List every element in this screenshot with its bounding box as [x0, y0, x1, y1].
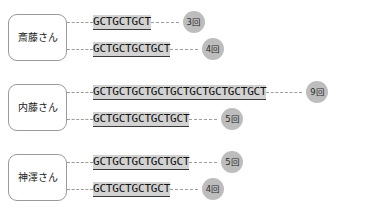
repeat-count-badge: 9回 [306, 81, 328, 103]
connector-line-right [170, 49, 198, 50]
allele-sequence: GCTGCTGCTGCT [93, 182, 170, 197]
person-name-box: 斎藤さん [8, 14, 67, 61]
connector-line-right [170, 189, 198, 190]
allele-sequence: GCTGCTGCT [93, 15, 151, 30]
connector-line-left [67, 49, 93, 50]
repeat-allele-diagram: 斎藤さん GCTGCTGCT 3回 GCTGCTGCTGCT 4回 内藤さん G… [0, 0, 365, 214]
repeat-count-badge: 4回 [202, 38, 224, 60]
allele-row: GCTGCTGCTGCTGCT 5回 [67, 152, 243, 172]
repeat-count-badge: 3回 [183, 11, 205, 33]
allele-sequence: GCTGCTGCTGCT [93, 42, 170, 57]
connector-line-left [67, 22, 93, 23]
allele-row: GCTGCTGCTGCTGCT 5回 [67, 109, 243, 129]
connector-line-left [67, 119, 93, 120]
connector-line-right [266, 92, 302, 93]
person-group: 斎藤さん GCTGCTGCT 3回 GCTGCTGCTGCT 4回 [0, 6, 365, 68]
person-name-box: 内藤さん [8, 84, 67, 131]
person-name-label: 神澤さん [18, 173, 58, 183]
allele-row: GCTGCTGCTGCT 4回 [67, 39, 224, 59]
connector-line-left [67, 162, 93, 163]
repeat-count-badge: 5回 [221, 108, 243, 130]
connector-line-left [67, 92, 93, 93]
allele-row: GCTGCTGCT 3回 [67, 12, 205, 32]
allele-sequence: GCTGCTGCTGCTGCT [93, 155, 189, 170]
allele-sequence: GCTGCTGCTGCTGCTGCTGCTGCTGCT [93, 85, 266, 100]
allele-row: GCTGCTGCTGCTGCTGCTGCTGCTGCT 9回 [67, 82, 328, 102]
connector-line-left [67, 189, 93, 190]
allele-sequence: GCTGCTGCTGCTGCT [93, 112, 189, 127]
connector-line-right [189, 119, 217, 120]
allele-row: GCTGCTGCTGCT 4回 [67, 179, 224, 199]
repeat-count-badge: 4回 [202, 178, 224, 200]
connector-line-right [189, 162, 217, 163]
person-name-box: 神澤さん [8, 154, 67, 201]
connector-line-right [151, 22, 179, 23]
person-group: 神澤さん GCTGCTGCTGCTGCT 5回 GCTGCTGCTGCT 4回 [0, 146, 365, 208]
person-name-label: 斎藤さん [18, 33, 58, 43]
repeat-count-badge: 5回 [221, 151, 243, 173]
person-group: 内藤さん GCTGCTGCTGCTGCTGCTGCTGCTGCT 9回 GCTG… [0, 76, 365, 138]
person-name-label: 内藤さん [18, 103, 58, 113]
